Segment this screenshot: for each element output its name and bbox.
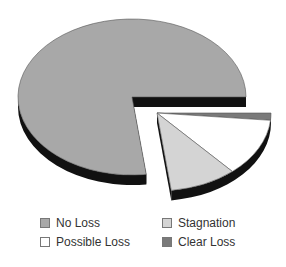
legend-swatch-stagnation: [162, 218, 172, 228]
legend-item-no-loss: No Loss: [40, 216, 100, 230]
legend-label-stagnation: Stagnation: [178, 216, 235, 230]
legend-label-no-loss: No Loss: [56, 216, 100, 230]
legend-label-clear-loss: Clear Loss: [178, 235, 235, 249]
legend-item-stagnation: Stagnation: [162, 216, 235, 230]
legend-swatch-clear-loss: [162, 237, 172, 247]
legend-swatch-no-loss: [40, 218, 50, 228]
legend-label-possible-loss: Possible Loss: [56, 235, 130, 249]
legend-item-clear-loss: Clear Loss: [162, 235, 235, 249]
pie-chart: [0, 0, 286, 210]
legend-item-possible-loss: Possible Loss: [40, 235, 130, 249]
slice-cut-face-no-loss: [132, 97, 246, 107]
legend-swatch-possible-loss: [40, 237, 50, 247]
